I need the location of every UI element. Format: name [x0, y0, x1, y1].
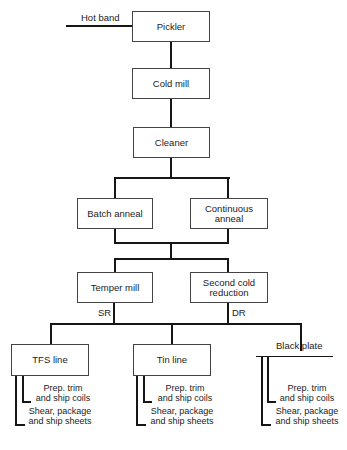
- tfs-coils-label: Prep. trim and ship coils: [30, 383, 96, 403]
- dr-connector: [227, 303, 229, 325]
- tin-line-box: Tin line: [133, 344, 211, 376]
- hot-band-connector: [66, 25, 133, 27]
- sheets-bracket: [15, 376, 17, 426]
- coils-bracket: [267, 357, 269, 403]
- connector: [227, 258, 229, 272]
- coils-bracket: [22, 376, 24, 403]
- connector: [170, 99, 172, 127]
- cleaner-box: Cleaner: [133, 127, 210, 158]
- connector: [114, 177, 116, 199]
- cleaner-label: Cleaner: [155, 138, 188, 148]
- tin-sheets-label: Shear, package and ship sheets: [146, 406, 218, 426]
- cold-mill-label: Cold mill: [153, 79, 189, 89]
- pickler-label: Pickler: [157, 22, 186, 32]
- continuous-anneal-label-2: anneal: [215, 214, 244, 224]
- connector: [227, 177, 229, 199]
- sheets-bracket: [261, 424, 271, 426]
- temper-mill-box: Temper mill: [77, 272, 153, 303]
- connector: [50, 323, 52, 344]
- cold-mill-box: Cold mill: [132, 68, 210, 99]
- product-distribution-line: [50, 323, 302, 325]
- tfs-sheets-label: Shear, package and ship sheets: [24, 406, 96, 426]
- coils-bracket: [143, 401, 152, 403]
- sheets-bracket: [136, 424, 146, 426]
- hot-band-label: Hot band: [81, 13, 120, 23]
- batch-anneal-box: Batch anneal: [77, 198, 153, 229]
- connector: [114, 258, 116, 272]
- sheets-bracket: [136, 376, 138, 426]
- temper-mill-label: Temper mill: [91, 283, 140, 293]
- second-cold-reduction-label-2: reduction: [209, 288, 248, 298]
- tfs-line-label: TFS line: [32, 355, 67, 365]
- connector: [170, 158, 172, 179]
- second-cold-reduction-label-1: Second cold: [203, 278, 255, 288]
- dr-label: DR: [232, 308, 246, 318]
- sr-label: SR: [98, 308, 111, 318]
- batch-anneal-label: Batch anneal: [87, 209, 142, 219]
- black-plate-label: Black plate: [276, 341, 322, 351]
- second-cold-reduction-box: Second cold reduction: [190, 272, 268, 303]
- connector: [170, 42, 172, 69]
- pickler-box: Pickler: [132, 11, 210, 42]
- black-plate-coils-label: Prep. trim and ship coils: [274, 383, 340, 403]
- continuous-anneal-label-1: Continuous: [205, 204, 253, 214]
- connector: [171, 323, 173, 344]
- sheets-bracket: [261, 357, 263, 426]
- continuous-anneal-box: Continuous anneal: [190, 198, 268, 229]
- sr-connector: [113, 303, 115, 325]
- mill-split-line: [114, 258, 229, 260]
- anneal-split-line: [114, 177, 230, 179]
- black-plate-sheets-label: Shear, package and ship sheets: [271, 406, 343, 426]
- tin-coils-label: Prep. trim and ship coils: [152, 383, 218, 403]
- coils-bracket: [143, 376, 145, 403]
- tfs-line-box: TFS line: [11, 344, 89, 376]
- tin-line-label: Tin line: [157, 355, 187, 365]
